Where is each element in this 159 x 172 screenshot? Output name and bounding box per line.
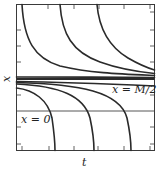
phase-plot: x = M/2 x = 0 t x: [0, 0, 159, 172]
upper-solution-curve-1: [22, 5, 155, 76]
upper-solution-curve-3: [97, 5, 155, 71]
left-ticks: [17, 30, 22, 144]
top-ticks: [48, 5, 150, 10]
label-half-capacity: x = M/2: [112, 83, 156, 96]
y-axis-label: x: [0, 75, 13, 82]
label-zero: x = 0: [21, 113, 50, 126]
near-upper-curve: [17, 77, 155, 78]
x-axis-label: t: [82, 156, 87, 169]
